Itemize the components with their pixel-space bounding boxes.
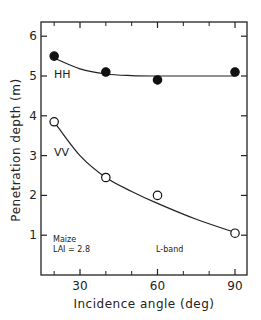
y-tick-label: 4 (29, 109, 37, 123)
chart: 306090123456 Penetration depth (m) Incid… (0, 0, 261, 320)
data-point-vv (50, 118, 58, 126)
y-tick-label: 5 (29, 69, 37, 83)
x-tick-label: 90 (227, 279, 242, 293)
data-point-hh (50, 52, 58, 60)
data-point-vv (102, 173, 110, 181)
x-axis-title: Incidence angle (deg) (73, 297, 214, 311)
y-tick-label: 1 (29, 228, 37, 242)
data-point-hh (153, 76, 161, 84)
annotation-lai: LAI = 2.8 (53, 245, 90, 254)
annotation-crop: Maize (53, 235, 76, 244)
data-point-hh (231, 68, 239, 76)
y-tick-label: 2 (29, 188, 37, 202)
x-tick-label: 60 (150, 279, 165, 293)
series-label-vv: VV (54, 146, 70, 159)
annotation-band: L-band (156, 245, 183, 254)
data-point-vv (231, 229, 239, 237)
y-tick-label: 6 (29, 29, 37, 43)
y-tick-label: 3 (29, 149, 37, 163)
y-axis-title: Penetration depth (m) (9, 78, 23, 221)
series-label-hh: HH (54, 68, 71, 81)
x-tick-label: 30 (72, 279, 87, 293)
fit-curve-hh (54, 58, 235, 76)
fit-curve-vv (54, 122, 235, 233)
data-point-vv (153, 191, 161, 199)
data-point-hh (102, 68, 110, 76)
